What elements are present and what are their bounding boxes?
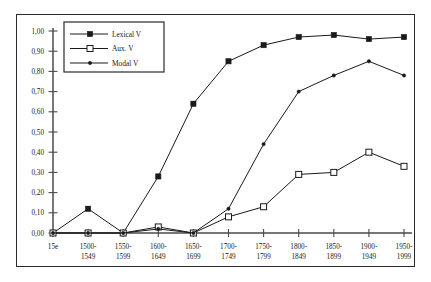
x-tick-label: 1649 [151,253,166,261]
x-tick-label: 1850- [325,243,342,251]
marker-filled-square-0-9 [366,36,371,41]
x-tick-label: 1549 [81,253,96,261]
x-tick-label: 1700- [220,243,237,251]
marker-open-square-1-6 [261,204,267,210]
x-tick-label: 1599 [116,253,131,261]
legend-label-0: Lexical V [112,30,142,39]
y-tick-label: 0,60 [31,108,44,116]
marker-filled-square-0-7 [296,34,301,39]
marker-dot-2-0 [51,231,54,234]
marker-dot-2-1 [86,231,89,234]
x-tick-label: 1500- [80,243,97,251]
x-tick-label: 1849 [292,253,307,261]
x-tick-label: 1749 [221,253,236,261]
marker-dot-legend-2 [88,61,91,64]
x-tick-label: 1750- [255,243,272,251]
marker-filled-square-0-1 [86,206,91,211]
marker-dot-2-7 [297,90,300,93]
y-tick-label: 0,10 [31,209,44,217]
marker-filled-square-legend-0 [87,31,92,36]
marker-open-square-1-8 [331,169,337,175]
x-tick-label: 1650- [185,243,202,251]
x-tick-label: 1799 [256,253,271,261]
x-tick-label: 1899 [327,253,342,261]
x-tick-label: 1550- [115,243,132,251]
y-tick-label: 0,40 [31,149,44,157]
y-tick-label: 0,70 [31,88,44,96]
x-tick-label: 1900- [361,243,378,251]
y-tick-label: 0,80 [31,68,44,76]
x-tick-label: 1999 [397,253,412,261]
marker-open-square-1-9 [366,149,372,155]
x-tick-label: 1800- [290,243,307,251]
marker-dot-2-2 [122,231,125,234]
y-tick-label: 0,20 [31,189,44,197]
y-tick-label: 0,30 [31,169,44,177]
chart-plot-area: 0,000,100,200,300,400,500,600,700,800,90… [0,0,431,282]
legend-label-1: Aux. V [112,44,134,53]
x-tick-label: 1699 [186,253,201,261]
marker-filled-square-0-3 [156,174,161,179]
x-tick-label: 15e [48,243,58,251]
marker-dot-2-9 [367,60,370,63]
marker-dot-2-4 [192,231,195,234]
marker-dot-2-8 [332,74,335,77]
marker-dot-2-3 [157,227,160,230]
marker-filled-square-0-10 [401,34,406,39]
y-tick-label: 0,90 [31,48,44,56]
legend-label-2: Modal V [112,59,139,68]
marker-open-square-1-5 [226,214,232,220]
marker-filled-square-0-4 [191,101,196,106]
marker-open-square-1-10 [401,163,407,169]
marker-open-square-1-7 [296,171,302,177]
x-tick-label: 1600- [150,243,167,251]
marker-dot-2-6 [262,142,265,145]
y-tick-label: 0,50 [31,129,44,137]
y-tick-label: 1,00 [31,28,44,36]
marker-dot-2-5 [227,207,230,210]
marker-filled-square-0-6 [261,43,266,48]
marker-open-square-legend-1 [87,46,93,52]
x-tick-label: 1949 [362,253,377,261]
x-tick-label: 1950- [396,243,413,251]
marker-filled-square-0-5 [226,59,231,64]
marker-filled-square-0-8 [331,32,336,37]
y-tick-label: 0,00 [31,230,44,238]
figure-container: 0,000,100,200,300,400,500,600,700,800,90… [0,0,431,282]
marker-dot-2-10 [402,74,405,77]
